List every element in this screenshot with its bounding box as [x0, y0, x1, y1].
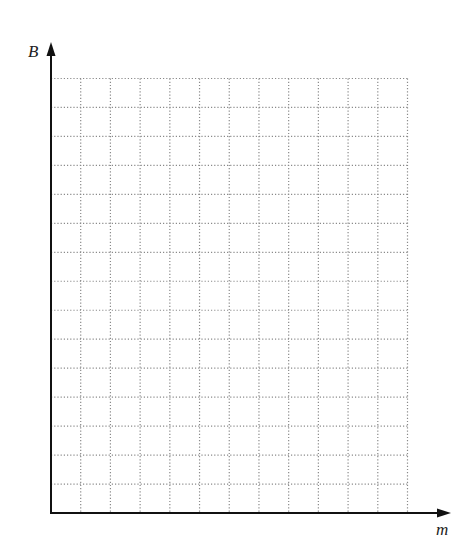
grid-lines [51, 79, 408, 514]
x-axis-label: m [436, 521, 448, 538]
plot-area [0, 0, 473, 551]
y-axis-arrow-icon [47, 42, 56, 56]
x-axis-arrow-icon [437, 509, 451, 518]
axes [47, 42, 452, 518]
y-axis-label: B [28, 43, 38, 60]
graph-figure: B m [0, 0, 473, 551]
